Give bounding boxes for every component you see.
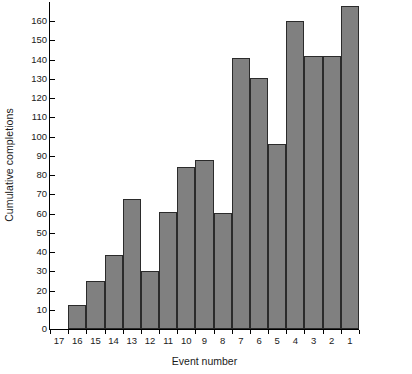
x-axis-tick-label: 9 <box>195 335 213 346</box>
x-axis-tick <box>341 330 342 334</box>
bar <box>304 56 322 329</box>
y-axis-tick-label: 20 <box>36 286 47 296</box>
y-axis-tick-label: 40 <box>36 247 47 257</box>
y-axis-tick-label: 130 <box>31 74 47 84</box>
y-axis-title-text: Cumulative completions <box>3 108 15 222</box>
y-axis-tick-label: 60 <box>36 209 47 219</box>
y-axis-tick-label: 110 <box>32 112 47 122</box>
x-axis-tick <box>214 330 215 334</box>
x-axis-tick-label: 13 <box>123 335 141 346</box>
bar <box>250 78 268 329</box>
x-axis-tick <box>250 330 251 334</box>
y-axis-tick-label: 140 <box>31 55 47 65</box>
x-axis-tick-label: 10 <box>177 335 195 346</box>
y-axis-tick-label: 90 <box>36 151 47 161</box>
y-axis-tick-label: 50 <box>36 228 47 238</box>
bars-layer <box>50 2 359 330</box>
y-axis-tick-label: 100 <box>31 132 47 142</box>
bar-chart: Cumulative completions 01020304050607080… <box>0 0 412 374</box>
x-axis-tick <box>304 330 305 334</box>
x-axis-tick-label: 8 <box>214 335 232 346</box>
bar <box>286 21 304 329</box>
x-axis-tick <box>105 330 106 334</box>
y-axis-tick-labels: 0102030405060708090100110120130140150160 <box>16 2 47 330</box>
x-axis-tick <box>50 330 51 334</box>
bar <box>232 58 250 329</box>
y-axis-tick-label: 0 <box>42 324 47 334</box>
x-axis-tick-label: 12 <box>141 335 159 346</box>
x-axis-tick-label: 14 <box>105 335 123 346</box>
bar <box>323 56 341 329</box>
bar <box>195 160 213 329</box>
x-axis-tick <box>177 330 178 334</box>
y-axis-tick-label: 70 <box>36 189 47 199</box>
x-axis-tick <box>159 330 160 334</box>
x-axis-tick <box>195 330 196 334</box>
x-axis-tick <box>232 330 233 334</box>
y-axis-tick-label: 150 <box>31 35 47 45</box>
x-axis-tick-labels: 1716151413121110987654321 <box>49 335 360 349</box>
bar <box>268 144 286 329</box>
y-axis-tick-label: 160 <box>31 16 47 26</box>
x-axis-tick <box>86 330 87 334</box>
bar <box>86 281 104 329</box>
x-axis-tick <box>268 330 269 334</box>
y-axis-tick-label: 80 <box>36 170 47 180</box>
x-axis-tick-label: 16 <box>68 335 86 346</box>
y-axis-tick-label: 30 <box>36 266 47 276</box>
x-axis-tick-label: 17 <box>50 335 68 346</box>
bar <box>68 305 86 329</box>
bar <box>105 255 123 329</box>
x-axis-tick-label: 2 <box>323 335 341 346</box>
x-axis-tick-label: 15 <box>86 335 104 346</box>
bar <box>214 213 232 329</box>
x-axis-tick <box>141 330 142 334</box>
bar <box>123 199 141 329</box>
y-axis-tick-label: 10 <box>36 305 47 315</box>
x-axis-tick-label: 7 <box>232 335 250 346</box>
x-axis-tick <box>286 330 287 334</box>
x-axis-tick-label: 3 <box>304 335 322 346</box>
y-axis-tick-label: 120 <box>31 93 47 103</box>
x-axis-tick <box>323 330 324 334</box>
x-axis-tick <box>68 330 69 334</box>
x-axis-tick-label: 4 <box>286 335 304 346</box>
x-axis-tick <box>123 330 124 334</box>
x-axis-tick-label: 5 <box>268 335 286 346</box>
bar <box>141 271 159 329</box>
plot-area <box>49 2 359 330</box>
x-axis-title: Event number <box>49 355 360 367</box>
x-axis-tick <box>359 330 360 334</box>
x-axis-tick-label: 1 <box>341 335 359 346</box>
x-axis-tick-label: 6 <box>250 335 268 346</box>
bar <box>159 212 177 329</box>
bar <box>341 6 359 329</box>
x-axis-tick-label: 11 <box>159 335 177 346</box>
bar <box>177 167 195 329</box>
